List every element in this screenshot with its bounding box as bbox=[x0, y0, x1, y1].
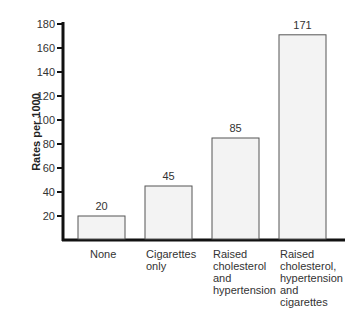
y-tick-label: 40 bbox=[43, 186, 55, 198]
x-category-label: None bbox=[90, 248, 116, 260]
y-tick-label: 160 bbox=[37, 42, 55, 54]
bar-value-label: 20 bbox=[95, 200, 107, 212]
y-tick-label: 180 bbox=[37, 18, 55, 30]
bar bbox=[145, 186, 192, 239]
y-axis-label: Rates per 1000 bbox=[30, 93, 42, 171]
bar-value-label: 85 bbox=[229, 122, 241, 134]
y-tick-label: 140 bbox=[37, 66, 55, 78]
bar bbox=[279, 35, 326, 239]
x-category-label: Raisedcholesterolandhypertension bbox=[213, 248, 276, 296]
chart: 20406080100120140160180Rates per 1000204… bbox=[0, 0, 350, 314]
bar bbox=[212, 138, 259, 239]
x-category-label: Raisedcholesterol,hypertensionandcigaret… bbox=[280, 248, 343, 308]
y-tick-label: 60 bbox=[43, 162, 55, 174]
x-category-label: Cigarettesonly bbox=[146, 248, 196, 272]
bar-value-label: 171 bbox=[293, 19, 311, 31]
bar bbox=[78, 216, 125, 239]
y-tick-label: 20 bbox=[43, 210, 55, 222]
bar-value-label: 45 bbox=[162, 170, 174, 182]
y-tick-label: 80 bbox=[43, 138, 55, 150]
